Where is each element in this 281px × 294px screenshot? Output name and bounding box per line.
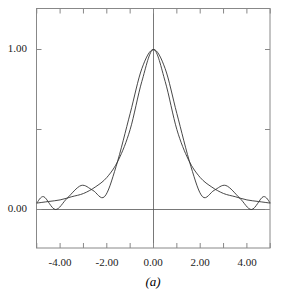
figure-caption: (a) <box>128 274 178 290</box>
y-tick-label: 1.00 <box>0 42 27 54</box>
x-tick-label: 4.00 <box>222 256 272 268</box>
x-tick-label: 2.00 <box>175 256 225 268</box>
x-tick-label: 0.00 <box>128 256 178 268</box>
x-tick-label: -2.00 <box>82 256 132 268</box>
chart-canvas <box>0 0 281 294</box>
y-tick-label: 0.00 <box>0 202 27 214</box>
x-tick-label: -4.00 <box>35 256 85 268</box>
